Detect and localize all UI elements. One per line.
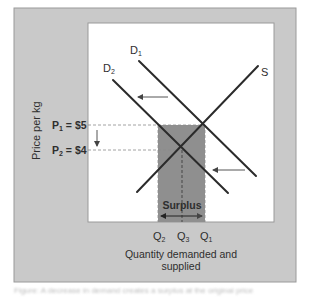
y-axis-label: Price per kg	[30, 101, 42, 160]
surplus-label: Surplus	[162, 199, 201, 211]
s-label: S	[261, 66, 268, 78]
supply-demand-diagram: D1 D2 S P1 = $5 P2 = $4 Price per kg Sur…	[0, 0, 309, 298]
p2-label: P2 = $4	[52, 144, 87, 157]
figure-caption: Figure: A decrease in demand creates a s…	[14, 286, 296, 296]
x-axis-label-line2: supplied	[161, 260, 200, 272]
p1-label: P1 = $5	[52, 119, 87, 132]
x-axis-label-line1: Quantity demanded and	[125, 248, 237, 260]
